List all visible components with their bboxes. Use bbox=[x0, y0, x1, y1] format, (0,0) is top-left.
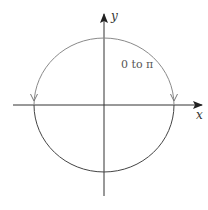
circle-diagram: y x 0 to π bbox=[0, 0, 208, 210]
range-annotation: 0 to π bbox=[121, 58, 153, 71]
x-axis-label: x bbox=[196, 108, 203, 122]
y-axis-label: y bbox=[110, 9, 118, 23]
